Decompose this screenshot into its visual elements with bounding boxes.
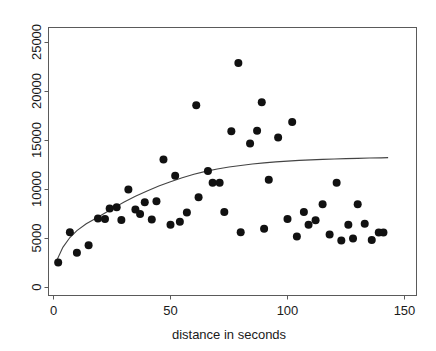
data-point	[379, 229, 387, 237]
data-point	[195, 193, 203, 201]
data-point	[246, 139, 254, 147]
data-point	[368, 236, 376, 244]
data-point	[85, 241, 93, 249]
data-point	[354, 200, 362, 208]
data-point	[73, 249, 81, 257]
data-point	[216, 179, 224, 187]
data-point	[192, 101, 200, 109]
data-point	[237, 228, 245, 236]
y-axis-tick-labels: 0 5000 10000 15000 20000 25000	[29, 24, 44, 291]
data-point	[167, 221, 175, 229]
scatter-points-group	[54, 59, 387, 266]
y-tick-label-10000: 10000	[29, 171, 44, 207]
data-point	[258, 98, 266, 106]
data-point	[204, 167, 212, 175]
data-point	[176, 218, 184, 226]
y-tick-label-0: 0	[29, 283, 44, 290]
data-point	[209, 179, 217, 187]
data-point	[312, 216, 320, 224]
data-point	[253, 127, 261, 135]
data-point	[106, 205, 114, 213]
x-tick-label-0: 0	[50, 303, 57, 318]
data-point	[124, 186, 132, 194]
x-tick-label-50: 50	[163, 303, 177, 318]
y-tick-label-25000: 25000	[29, 24, 44, 60]
y-tick-label-20000: 20000	[29, 73, 44, 109]
data-point	[66, 228, 74, 236]
data-point	[260, 225, 268, 233]
y-tick-label-15000: 15000	[29, 122, 44, 158]
data-point	[141, 198, 149, 206]
data-point	[234, 59, 242, 67]
y-tick-label-5000: 5000	[29, 224, 44, 253]
data-point	[293, 233, 301, 241]
data-point	[101, 215, 109, 223]
data-point	[337, 236, 345, 244]
x-tick-label-150: 150	[394, 303, 416, 318]
data-point	[148, 215, 156, 223]
data-point	[344, 221, 352, 229]
data-point	[326, 231, 334, 239]
data-point	[113, 203, 121, 211]
scatter-plot-figure: 0 5000 10000 15000 20000 25000 0 50 100 …	[0, 0, 436, 351]
data-point	[305, 221, 313, 229]
data-point	[136, 210, 144, 218]
plot-frame	[49, 28, 417, 296]
data-point	[319, 200, 327, 208]
data-point	[94, 214, 102, 222]
x-tick-label-100: 100	[277, 303, 299, 318]
plot-canvas: 0 5000 10000 15000 20000 25000 0 50 100 …	[0, 0, 436, 351]
data-point	[274, 134, 282, 142]
data-point	[183, 209, 191, 217]
data-point	[288, 118, 296, 126]
data-point	[159, 156, 167, 164]
data-point	[333, 179, 341, 187]
data-point	[152, 197, 160, 205]
data-point	[284, 215, 292, 223]
data-point	[300, 208, 308, 216]
data-point	[265, 176, 273, 184]
data-point	[227, 127, 235, 135]
x-axis-ticks	[54, 296, 405, 300]
data-point	[349, 235, 357, 243]
x-axis-title: distance in seconds	[172, 327, 287, 342]
x-axis-tick-labels: 0 50 100 150	[50, 303, 415, 318]
data-point	[361, 220, 369, 228]
data-point	[171, 172, 179, 180]
data-point	[220, 208, 228, 216]
data-point	[117, 216, 125, 224]
data-point	[54, 259, 62, 267]
y-axis-ticks	[45, 43, 49, 288]
